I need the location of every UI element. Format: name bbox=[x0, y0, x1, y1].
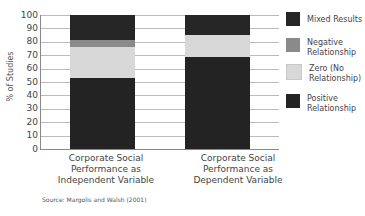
y-tick-label: 80 bbox=[20, 37, 38, 46]
bar-segment bbox=[185, 15, 250, 35]
bar-segment bbox=[185, 57, 250, 149]
x-axis-line bbox=[40, 149, 279, 150]
y-tick-label: 70 bbox=[20, 51, 38, 60]
y-tick-label: 30 bbox=[20, 104, 38, 113]
legend-item: NegativeRelationship bbox=[286, 38, 365, 58]
bar-segment bbox=[70, 47, 135, 78]
legend-item: PositiveRelationship bbox=[286, 94, 365, 114]
y-tick-label: 10 bbox=[20, 131, 38, 140]
y-tick-label: 60 bbox=[20, 64, 38, 73]
y-tick-label: 90 bbox=[20, 24, 38, 33]
bar-segment bbox=[70, 40, 135, 47]
bar-segment bbox=[70, 15, 135, 40]
y-tick-label: 40 bbox=[20, 91, 38, 100]
legend-item: Zero (NoRelationship) bbox=[286, 64, 365, 84]
legend-label: PositiveRelationship bbox=[307, 94, 365, 114]
x-label-dependent: Corporate Social Performance as Dependen… bbox=[178, 153, 298, 186]
y-tick-label: 20 bbox=[20, 118, 38, 127]
y-axis-line bbox=[40, 15, 41, 150]
legend-label: NegativeRelationship bbox=[307, 38, 365, 58]
x-label-independent: Corporate Social Performance as Independ… bbox=[46, 153, 166, 186]
legend-swatch bbox=[286, 94, 300, 108]
legend-label: Mixed Results bbox=[307, 15, 365, 25]
legend-swatch bbox=[286, 64, 302, 80]
y-tick-label: 50 bbox=[20, 78, 38, 87]
source-note: Source: Margolis and Walsh (2001) bbox=[42, 196, 146, 203]
legend-swatch bbox=[286, 38, 300, 52]
stacked-bar bbox=[185, 15, 250, 149]
y-axis-label: % of Studies bbox=[6, 47, 15, 107]
legend-label: Zero (NoRelationship) bbox=[309, 64, 365, 84]
stacked-bar bbox=[70, 15, 135, 149]
bar-segment bbox=[70, 78, 135, 149]
legend-item: Mixed Results bbox=[286, 12, 365, 26]
y-tick-label: 0 bbox=[20, 145, 38, 154]
bar-segment bbox=[185, 35, 250, 56]
legend-swatch bbox=[286, 12, 300, 26]
y-tick-label: 100 bbox=[20, 11, 38, 20]
